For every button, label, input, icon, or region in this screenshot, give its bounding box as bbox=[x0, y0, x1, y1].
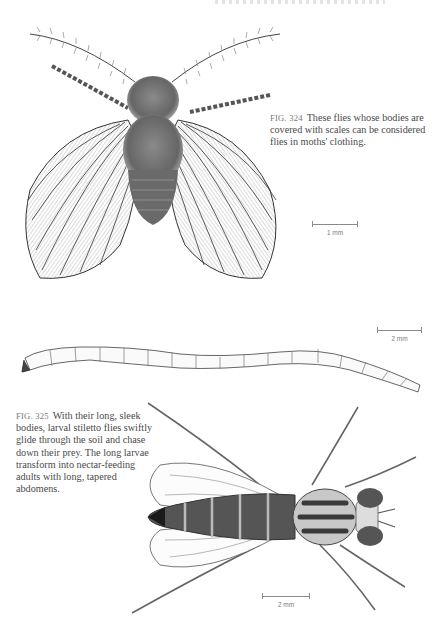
running-header-fragment bbox=[215, 0, 385, 4]
wing-right bbox=[168, 120, 276, 278]
moth-fly-illustration bbox=[0, 20, 300, 300]
scale-bar-1mm: 1 mm bbox=[312, 221, 358, 237]
wing-left bbox=[26, 120, 138, 278]
caption-line: flies in moths' clothing. bbox=[270, 136, 442, 148]
figure-number: FIG. 324 bbox=[270, 113, 303, 123]
figure-number: FIG. 325 bbox=[16, 411, 49, 421]
scale-bar-2mm-adult: 2 mm bbox=[262, 593, 310, 609]
scale-bar-label: 1 mm bbox=[312, 229, 358, 236]
book-page: FIG. 324These flies whose bodies are cov… bbox=[0, 0, 442, 623]
stiletto-fly-adult-illustration bbox=[120, 395, 442, 623]
antenna-right bbox=[172, 27, 280, 84]
caption-line: covered with scales can be considered bbox=[270, 124, 442, 136]
stiletto-fly-larva-illustration bbox=[20, 340, 430, 400]
figure-caption-324: FIG. 324These flies whose bodies are cov… bbox=[270, 112, 442, 149]
caption-line: These flies whose bodies are bbox=[307, 112, 424, 123]
antenna-left bbox=[30, 27, 135, 84]
scale-bar-label: 2 mm bbox=[262, 601, 310, 608]
